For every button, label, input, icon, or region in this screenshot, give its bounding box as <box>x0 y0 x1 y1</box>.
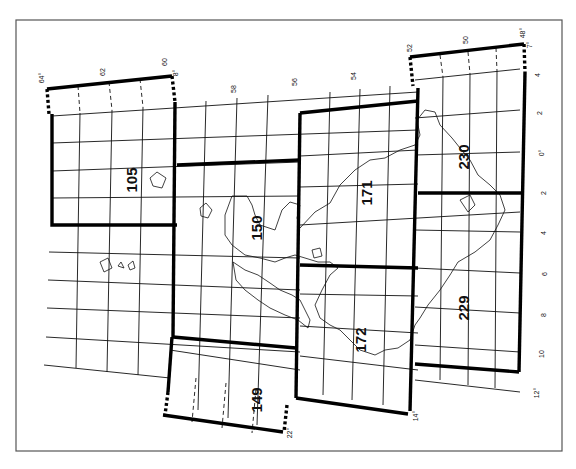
sheet-number-172: 172 <box>352 327 369 352</box>
tick-label-bottom: 14° <box>412 411 419 422</box>
tick-label-right: 4 <box>540 231 547 235</box>
tick-label-top: 56 <box>291 78 298 86</box>
tick-label-right: 2 <box>536 111 543 115</box>
tick-label-right: 6 <box>541 272 548 276</box>
tick-label-right: 0° <box>538 149 545 156</box>
coastline <box>100 110 505 355</box>
map-sheet-index: 105150171230172229149 64°62608°585654525… <box>0 0 576 469</box>
tick-label-right: 2 <box>540 191 547 195</box>
tick-label-top: 54 <box>350 72 357 80</box>
graticule <box>44 69 520 425</box>
tick-label-top: 7° <box>526 41 533 48</box>
sheet-number-150: 150 <box>248 215 265 240</box>
tick-label-top: 50 <box>462 36 469 44</box>
tick-label-top: 52 <box>406 44 413 52</box>
sheet-number-230: 230 <box>455 144 472 169</box>
tick-label-right: 4 <box>534 73 541 77</box>
sheet-number-105: 105 <box>123 167 140 192</box>
tick-label-bottom: 22° <box>286 428 293 439</box>
tick-label-top: 58 <box>230 85 237 93</box>
sheet-number-229: 229 <box>455 295 472 320</box>
tick-label-right: 8 <box>540 313 547 317</box>
tick-label-right: 12° <box>533 388 540 399</box>
tick-label-top: 8° <box>172 69 179 76</box>
sheet-number-149: 149 <box>248 387 265 412</box>
tick-labels: 64°62608°585654525048°7°420°24681012°22°… <box>38 28 548 439</box>
tick-label-top: 60 <box>161 58 168 66</box>
tick-label-right: 10 <box>538 350 545 358</box>
sheet-outlines <box>47 44 525 432</box>
tick-label-top: 64° <box>38 73 45 84</box>
sheet-number-171: 171 <box>358 180 375 205</box>
tick-label-top: 62 <box>99 68 106 76</box>
tick-label-top: 48° <box>519 28 526 39</box>
